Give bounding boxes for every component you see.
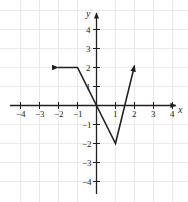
- axis-lines: [10, 13, 176, 194]
- xtick-label-3: 3: [151, 110, 156, 119]
- ytick-label-1: 1: [86, 83, 91, 92]
- xtick-label-4: 4: [170, 110, 175, 119]
- xtick-label-2: 2: [132, 110, 137, 119]
- graph-screenshot: −4 −3 −2 −1 1 2 3 4 4 3 2 1 −1 −2 −3 −4 …: [0, 0, 188, 202]
- xtick-label-neg1: −1: [73, 110, 83, 119]
- coordinate-plane: [0, 0, 188, 202]
- ytick-label-neg1: −1: [82, 121, 92, 130]
- ytick-label-3: 3: [86, 45, 91, 54]
- xtick-label-1: 1: [113, 110, 118, 119]
- y-axis-label: y: [86, 9, 90, 19]
- ytick-label-neg3: −3: [82, 159, 92, 168]
- ytick-label-2: 2: [86, 64, 91, 73]
- ytick-label-neg2: −2: [82, 140, 92, 149]
- xtick-label-neg2: −2: [54, 110, 64, 119]
- xtick-label-neg4: −4: [16, 110, 26, 119]
- xtick-label-neg3: −3: [35, 110, 45, 119]
- ytick-label-neg4: −4: [82, 178, 92, 187]
- ytick-label-4: 4: [86, 26, 91, 35]
- x-axis-label: x: [178, 105, 182, 115]
